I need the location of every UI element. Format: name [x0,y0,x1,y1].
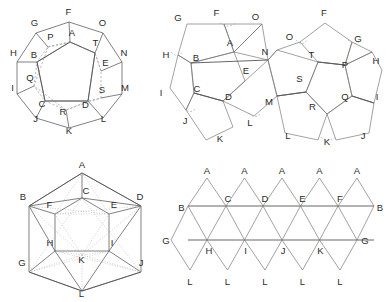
ico-label-F: F [47,199,53,210]
net-ico-label-C: C [225,193,232,204]
vertex-label-I: I [11,82,14,93]
icosahedron-net-labels: A A A A A B C D E F B G H I J K G L L L … [162,165,383,287]
vertex-label-E: E [102,57,108,68]
ico-label-D: D [137,191,144,202]
vertex-label-N: N [121,47,128,58]
ico-label-K: K [78,254,85,265]
vertex-label-O: O [99,17,106,28]
net-label-I2: I [376,91,379,102]
net-ico-label-A1: A [204,165,211,176]
net-ico-label-G1: G [162,235,169,246]
net-ico-label-K: K [317,245,324,256]
vertex-label-F: F [66,6,72,17]
ico-label-C: C [83,185,90,196]
net-label-E: E [243,65,249,76]
ico-label-L: L [79,288,84,299]
dodecahedron-net-figure: G F O H B A N E I C D M J K L O F G T P … [150,0,389,152]
ico-label-I: I [111,237,114,248]
net-label-M: M [265,96,273,107]
dodecahedron-solid-figure: F G O H N I M J L K A P T B E Q S C R D [0,0,140,150]
net-label-G2: G [354,33,361,44]
net-label-F2: F [321,7,327,18]
vertex-label-H: H [10,47,17,58]
vertex-label-C: C [39,98,46,109]
net-label-K1: K [217,133,224,144]
icosahedron-solid-figure: A B C D F E H I G K J L [0,152,160,302]
net-label-O2: O [286,31,293,42]
net-ico-label-B1: B [178,202,184,213]
net-ico-label-I: I [244,245,247,256]
ico-label-H: H [47,237,54,248]
net-ico-label-L3: L [262,276,267,287]
net-label-J2: J [361,130,366,141]
net-label-L2: L [285,130,290,141]
vertex-label-J: J [33,113,38,124]
ico-label-E: E [111,199,117,210]
net-ico-label-L1: L [187,276,192,287]
net-label-N: N [262,46,269,57]
net-label-Q: Q [341,91,348,102]
vertex-label-Q: Q [26,72,33,83]
net-ico-label-L4: L [300,276,305,287]
icosahedron-net-figure: A A A A A B C D E F B G H I J K G L L L … [155,152,389,302]
net-label-A: A [227,37,234,48]
net-label-C: C [194,83,201,94]
net-label-K2: K [324,136,331,147]
net-ico-label-D: D [262,193,269,204]
vertex-label-T: T [93,37,99,48]
ico-label-G: G [18,257,25,268]
ico-label-A: A [79,159,86,170]
ico-label-J: J [139,257,144,268]
net-ico-label-F: F [337,193,343,204]
net-ico-label-H: H [206,245,213,256]
net-ico-label-A2: A [241,165,248,176]
vertex-label-D: D [82,99,89,110]
net-label-I1: I [160,87,163,98]
net-label-F1: F [214,7,220,18]
vertex-label-A: A [69,27,76,38]
icosahedron-net-bands [170,178,374,270]
vertex-label-S: S [99,84,105,95]
net-label-R: R [309,101,316,112]
net-label-P: P [342,59,348,70]
net-label-O1: O [252,11,259,22]
net-label-G1: G [174,12,181,23]
net-ico-label-L5: L [337,276,342,287]
vertex-label-B: B [31,49,37,60]
figure-canvas: F G O H N I M J L K A P T B E Q S C R D [0,0,389,302]
net-label-D: D [225,91,232,102]
vertex-label-L: L [101,113,106,124]
net-ico-label-L2: L [225,276,230,287]
net-ico-label-G2: G [361,235,368,246]
dodecahedron-front-face [37,42,95,101]
net-ico-label-J: J [281,245,286,256]
net-label-S: S [296,73,302,84]
net-label-B: B [193,52,199,63]
vertex-label-G: G [31,17,38,28]
vertex-label-R: R [60,106,67,117]
net-ico-label-A3: A [279,165,286,176]
vertex-label-P: P [47,31,53,42]
ico-label-B: B [20,191,26,202]
net-ico-label-A5: A [354,165,361,176]
vertex-label-K: K [66,125,73,136]
net-label-H1: H [163,49,170,60]
net-ico-label-E: E [299,193,305,204]
vertex-label-M: M [121,82,129,93]
net-label-J1: J [183,115,188,126]
net-ico-label-B2: B [377,202,383,213]
net-label-T: T [309,49,315,60]
net-ico-label-A4: A [316,165,323,176]
net-label-H2: H [373,55,380,66]
dodecahedron-solid-labels: F G O H N I M J L K A P T B E Q S C R D [10,6,129,136]
net-label-L1: L [247,117,252,128]
